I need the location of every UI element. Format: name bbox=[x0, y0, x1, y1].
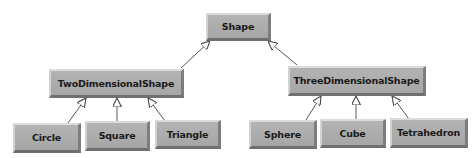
node-tetrahedron: Tetrahedron bbox=[390, 118, 468, 148]
node-label: Cube bbox=[339, 128, 365, 139]
node-label: ThreeDimensionalShape bbox=[294, 75, 420, 86]
node-label: Shape bbox=[222, 21, 254, 32]
edge-two-to-shape bbox=[181, 41, 210, 68]
edge-sphere-to-three bbox=[306, 96, 321, 120]
node-shape: Shape bbox=[206, 13, 271, 41]
node-label: Triangle bbox=[167, 129, 208, 140]
class-hierarchy-diagram: Shape TwoDimensionalShape ThreeDimension… bbox=[0, 0, 476, 158]
node-label: Tetrahedron bbox=[397, 127, 460, 138]
edge-three-to-shape bbox=[268, 41, 297, 65]
node-two-dimensional-shape: TwoDimensionalShape bbox=[49, 69, 184, 98]
edge-tetrahedron-to-three bbox=[392, 96, 409, 119]
node-label: Square bbox=[99, 130, 136, 141]
node-label: TwoDimensionalShape bbox=[58, 78, 174, 89]
node-sphere: Sphere bbox=[249, 120, 317, 149]
node-cube: Cube bbox=[320, 119, 386, 148]
edge-circle-to-two bbox=[68, 98, 86, 123]
node-circle: Circle bbox=[13, 123, 81, 153]
edge-triangle-to-two bbox=[148, 98, 165, 121]
node-three-dimensional-shape: ThreeDimensionalShape bbox=[288, 66, 426, 96]
node-label: Sphere bbox=[264, 129, 301, 140]
node-triangle: Triangle bbox=[155, 120, 221, 149]
node-square: Square bbox=[85, 121, 150, 151]
node-label: Circle bbox=[32, 132, 61, 143]
